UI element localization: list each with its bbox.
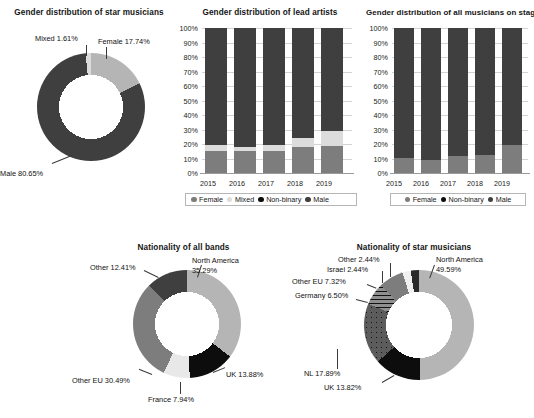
bar-seg-female: [421, 160, 441, 173]
chart-bands-nationality-donut: Nationality of all bands North America35…: [76, 243, 291, 418]
donut-label-other-eu: Other EU 7.32%: [292, 277, 346, 287]
xtick-2016: 2016: [223, 179, 251, 188]
bar-seg-male: [394, 28, 414, 158]
bar-2017: [448, 28, 468, 173]
bar-seg-female: [502, 145, 522, 173]
donut-label-france: France 7.94%: [148, 395, 194, 405]
bar-2018: [292, 28, 314, 173]
bar-2019: [321, 28, 343, 173]
ytick-10: 10%: [364, 154, 388, 163]
chart-title-all-musicians: Gender distribution of all musicians on …: [366, 8, 534, 17]
bar-2019: [502, 28, 522, 173]
chart-star-gender-donut: Gender distribution of star musicians Mi…: [0, 8, 178, 213]
bar-seg-female: [263, 151, 285, 174]
leader-line-other: [390, 263, 391, 277]
ytick-30: 30%: [174, 125, 198, 134]
donut-label-israel: Israel 2.44%: [327, 265, 368, 275]
ytick-30: 30%: [364, 125, 388, 134]
ytick-80: 80%: [364, 53, 388, 62]
ytick-20: 20%: [174, 140, 198, 149]
legend-label-non-binary: Non-binary: [266, 195, 301, 204]
bar-2015: [394, 28, 414, 173]
donut-hole-star-nationality: [364, 270, 474, 380]
ytick-60: 60%: [174, 82, 198, 91]
donut-hole-bands-nationality: [133, 270, 241, 378]
chart-title-star-nationality: Nationality of star musicians: [294, 243, 534, 252]
leader-line-male: [52, 155, 73, 164]
xtick-2019: 2019: [310, 179, 338, 188]
legend-item-mixed[interactable]: Mixed: [227, 195, 254, 204]
legend-label-male: Male: [496, 195, 512, 204]
donut-label-germany: Germany 6.50%: [295, 291, 348, 301]
donut-label-male: Male 80.65%: [0, 169, 43, 179]
leader-line-israel: [382, 271, 383, 283]
donut-label-north-america: North America49.59%: [436, 255, 483, 274]
ytick-80: 80%: [174, 53, 198, 62]
chart-title-star-gender: Gender distribution of star musicians: [0, 8, 178, 17]
x-axis-line: [390, 173, 530, 174]
legend-label-mixed: Mixed: [235, 195, 254, 204]
ytick-100: 100%: [174, 24, 198, 33]
leader-line-female: [106, 47, 107, 59]
bar-seg-female: [321, 146, 343, 173]
bar-2018: [475, 28, 495, 173]
legend-item-male[interactable]: Male: [305, 195, 329, 204]
ytick-40: 40%: [174, 111, 198, 120]
donut-label-other: Other 12.41%: [90, 263, 136, 273]
xtick-2016: 2016: [407, 179, 435, 188]
ytick-50: 50%: [174, 96, 198, 105]
legend-swatch-mixed-icon: [227, 197, 233, 203]
legend-swatch-male-icon: [305, 197, 311, 203]
ytick-0: 0%: [364, 169, 388, 178]
legend-item-female[interactable]: Female: [405, 195, 437, 204]
plot-area-lead-artists: [202, 28, 352, 173]
donut-label-other-eu: Other EU 30.49%: [72, 376, 130, 386]
donut-label-north-america: North America35.29%: [192, 256, 239, 275]
bar-seg-mixed: [321, 131, 343, 146]
bar-seg-male: [234, 28, 256, 147]
bar-seg-female: [475, 155, 495, 173]
leader-line-other-eu: [367, 284, 377, 289]
bar-seg-male: [421, 28, 441, 160]
donut-label-uk: UK 13.82%: [324, 383, 361, 393]
ytick-10: 10%: [174, 154, 198, 163]
legend-item-non-binary[interactable]: Non-binary: [441, 195, 484, 204]
legend-label-female: Female: [199, 195, 223, 204]
leader-line-france: [180, 382, 181, 394]
ytick-20: 20%: [364, 140, 388, 149]
xtick-2017: 2017: [434, 179, 462, 188]
legend-label-male: Male: [313, 195, 329, 204]
leader-line-uk: [382, 375, 395, 383]
donut-label-mixed: Mixed 1.61%: [35, 34, 78, 44]
xtick-2018: 2018: [461, 179, 489, 188]
bar-seg-male: [321, 28, 343, 131]
bar-seg-male: [475, 28, 495, 155]
ytick-0: 0%: [174, 169, 198, 178]
leader-line-other: [144, 270, 159, 278]
ytick-70: 70%: [364, 67, 388, 76]
ytick-50: 50%: [364, 96, 388, 105]
xtick-2015: 2015: [194, 179, 222, 188]
donut-label-female: Female 17.74%: [98, 37, 150, 47]
legend-item-female[interactable]: Female: [191, 195, 223, 204]
donut-star-gender: Mixed 1.61% Female 17.74% Male 80.65%: [0, 17, 178, 197]
legend-label-non-binary: Non-binary: [449, 195, 484, 204]
legend-item-male[interactable]: Male: [488, 195, 512, 204]
bar-seg-female: [394, 158, 414, 173]
leader-line-mixed: [86, 45, 87, 56]
leader-line-germany: [356, 299, 368, 303]
bar-seg-male: [502, 28, 522, 145]
legend-swatch-non-binary-icon: [258, 197, 264, 203]
legend-swatch-female-icon: [191, 197, 197, 203]
xtick-2019: 2019: [488, 179, 516, 188]
legend-item-non-binary[interactable]: Non-binary: [258, 195, 301, 204]
donut-label-other: Other 2.44%: [338, 255, 380, 265]
bar-seg-male: [263, 28, 285, 145]
legend-swatch-female-icon: [405, 197, 411, 203]
bar-2017: [263, 28, 285, 173]
xtick-2017: 2017: [252, 179, 280, 188]
bar-seg-female: [234, 151, 256, 173]
bar-seg-male: [205, 28, 227, 145]
xtick-2018: 2018: [281, 179, 309, 188]
bar-seg-female: [205, 151, 227, 173]
